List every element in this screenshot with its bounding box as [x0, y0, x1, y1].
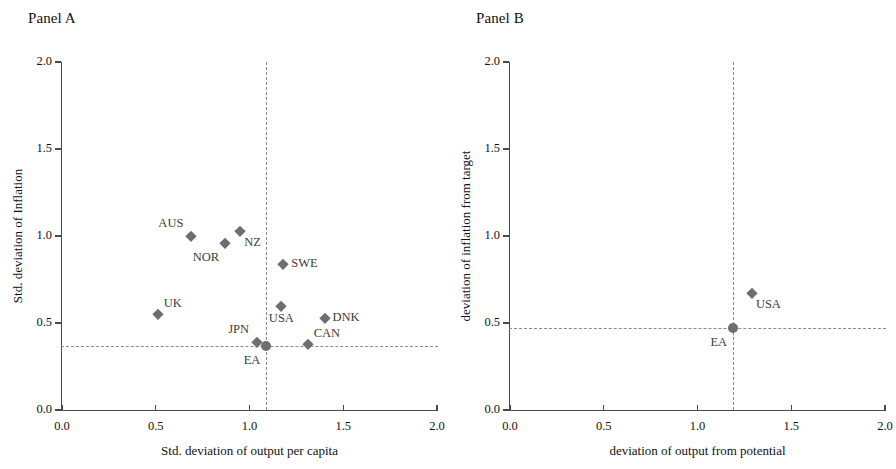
data-point-label-nz: NZ — [244, 235, 261, 250]
x-axis-title: Std. deviation of output per capita — [62, 443, 437, 459]
vertical-reference-line — [266, 62, 267, 410]
panel-b-plot-area — [510, 62, 885, 410]
x-axis-tick-label: 0.5 — [134, 419, 178, 434]
x-axis-title: deviation of output from potential — [510, 443, 885, 459]
data-point-label-can: CAN — [314, 326, 340, 341]
data-point-label-swe: SWE — [291, 256, 317, 271]
horizontal-reference-line — [509, 328, 886, 329]
panel-b: Panel B 0.00.51.01.52.00.00.51.01.52.0de… — [448, 0, 896, 469]
x-axis-tick-label: 0.0 — [40, 419, 84, 434]
data-point-label-uk: UK — [164, 296, 182, 311]
x-axis-tick-label: 1.0 — [228, 419, 272, 434]
y-axis-title: deviation of inflation from target — [458, 62, 474, 410]
y-axis-tick — [55, 322, 61, 323]
data-point-label-ea: EA — [244, 353, 261, 368]
x-axis-tick-label: 0.0 — [488, 419, 532, 434]
vertical-reference-line — [733, 62, 734, 410]
x-axis-tick-label: 2.0 — [863, 419, 896, 434]
y-axis-tick — [503, 322, 509, 323]
horizontal-reference-line — [61, 346, 438, 347]
x-axis-tick — [509, 405, 510, 411]
data-point-ea — [261, 341, 271, 351]
x-axis-tick — [155, 405, 156, 411]
y-axis-tick — [503, 235, 509, 236]
data-point-label-jpn: JPN — [228, 322, 249, 337]
x-axis-tick — [61, 405, 62, 411]
y-axis-line — [61, 62, 62, 411]
data-point-label-ea: EA — [710, 335, 727, 350]
panel-a-title: Panel A — [28, 10, 76, 27]
x-axis-tick — [791, 405, 792, 411]
data-point-label-dnk: DNK — [333, 310, 360, 325]
data-point-ea — [728, 323, 738, 333]
y-axis-tick — [503, 61, 509, 62]
data-point-label-aus: AUS — [158, 216, 183, 231]
x-axis-tick — [884, 405, 885, 411]
y-axis-tick — [55, 409, 61, 410]
panel-a: Panel A 0.00.51.01.52.00.00.51.01.52.0St… — [0, 0, 448, 469]
y-axis-tick — [503, 409, 509, 410]
y-axis-title: Std. deviation of Inflation — [10, 62, 26, 410]
x-axis-tick-label: 1.0 — [676, 419, 720, 434]
x-axis-tick — [603, 405, 604, 411]
data-point-label-usa: USA — [756, 297, 781, 312]
x-axis-tick — [249, 405, 250, 411]
x-axis-tick — [436, 405, 437, 411]
y-axis-line — [509, 62, 510, 411]
y-axis-tick — [55, 148, 61, 149]
figure-two-panel-scatter: Panel A 0.00.51.01.52.00.00.51.01.52.0St… — [0, 0, 896, 469]
y-axis-tick — [55, 235, 61, 236]
panel-b-title: Panel B — [476, 10, 524, 27]
x-axis-tick — [697, 405, 698, 411]
data-point-label-nor: NOR — [193, 250, 219, 265]
x-axis-tick-label: 1.5 — [321, 419, 365, 434]
x-axis-tick — [343, 405, 344, 411]
data-point-label-usa: USA — [261, 311, 301, 326]
x-axis-tick-label: 1.5 — [769, 419, 813, 434]
y-axis-tick — [55, 61, 61, 62]
x-axis-tick-label: 0.5 — [582, 419, 626, 434]
y-axis-tick — [503, 148, 509, 149]
